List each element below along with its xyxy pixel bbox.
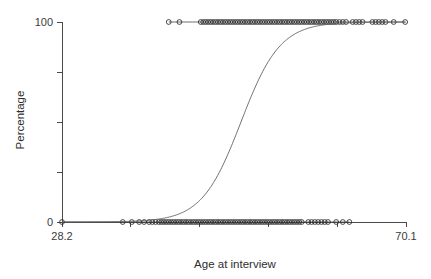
data-row-connector-lines — [62, 22, 405, 222]
y-tick-label: 100 — [35, 16, 53, 28]
x-tick-label: 28.2 — [51, 230, 72, 242]
y-axis-ticks: 0100 — [35, 16, 62, 228]
chart-canvas: 0100 28.270.1 Age at interview Percentag… — [0, 0, 431, 279]
fitted-logistic-curve — [62, 22, 406, 222]
x-axis-ticks: 28.270.1 — [51, 222, 416, 242]
logistic-regression-chart: 0100 28.270.1 Age at interview Percentag… — [0, 0, 431, 279]
y-axis-group: 0100 — [35, 16, 62, 228]
y-tick-label: 0 — [47, 216, 53, 228]
x-axis-group: 28.270.1 — [51, 222, 416, 242]
x-tick-label: 70.1 — [395, 230, 416, 242]
x-axis-title: Age at interview — [194, 258, 277, 270]
y-axis-title: Percentage — [14, 91, 26, 150]
